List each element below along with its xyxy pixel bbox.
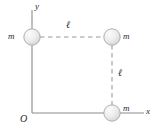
mass-sphere-top-left bbox=[24, 29, 40, 45]
length-label-horizontal: ℓ bbox=[66, 20, 70, 30]
physics-diagram-figure: y x O m m m ℓ ℓ bbox=[0, 0, 156, 132]
x-axis-label: x bbox=[146, 107, 150, 116]
mass-sphere-bottom-right bbox=[104, 105, 120, 121]
origin-label: O bbox=[20, 114, 27, 124]
mass-sphere-top-right bbox=[104, 29, 120, 45]
length-label-vertical: ℓ bbox=[118, 68, 122, 78]
mass-label-top-left: m bbox=[8, 32, 15, 41]
y-axis-label: y bbox=[35, 2, 39, 11]
mass-label-bottom-right: m bbox=[123, 104, 130, 113]
mass-label-top-right: m bbox=[123, 32, 130, 41]
